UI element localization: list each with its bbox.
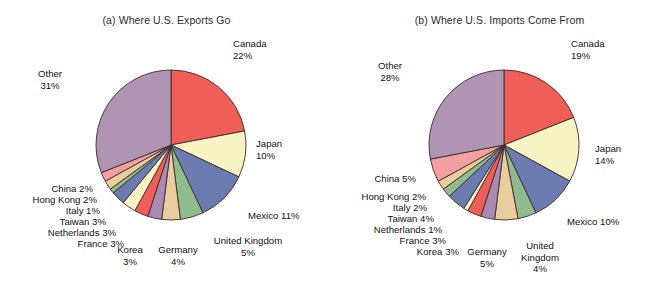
slice-label-other-name: Other [360, 60, 420, 72]
slice-label-italy-text: Italy 2% [333, 202, 427, 214]
chart-panel-exports: (a) Where U.S. Exports Go Canada 22% Jap… [0, 0, 333, 295]
slice-label-france: France 3% [333, 235, 446, 247]
slice-label-other: Other 31% [20, 68, 80, 91]
slice-label-mexico: Mexico 11% [248, 210, 300, 222]
slice-label-netherlands: Netherlands 1% [333, 224, 442, 236]
slice-label-united-kingdom-name2: Kingdom [509, 252, 571, 264]
slice-label-hong-kong: Hong Kong 2% [333, 191, 426, 203]
slice-label-canada: Canada 22% [233, 38, 267, 61]
slice-label-mexico: Mexico 10% [567, 216, 619, 228]
slice-label-italy: Italy 1% [0, 205, 100, 217]
slice-label-korea: Korea 3% [353, 246, 459, 258]
slice-label-china: China 5% [333, 173, 416, 185]
slice-label-united-kingdom-name1: United [509, 240, 571, 252]
slice-label-united-kingdom-value: 4% [509, 263, 571, 275]
slice-label-japan-value: 14% [595, 155, 621, 167]
slice-label-other-value: 31% [20, 80, 80, 92]
slice-label-other-name: Other [20, 68, 80, 80]
pie-slice-other[interactable] [429, 70, 504, 159]
slice-label-china-text: China 2% [0, 183, 93, 195]
slice-label-canada-value: 22% [233, 50, 267, 62]
slice-label-china: China 2% [0, 183, 93, 195]
slice-label-hong-kong: Hong Kong 2% [0, 194, 97, 206]
slice-label-taiwan-text: Taiwan 3% [0, 216, 106, 228]
slice-label-japan-value: 10% [256, 150, 282, 162]
slice-label-korea-text: Korea 3% [353, 246, 459, 258]
slice-label-germany: Germany 5% [456, 246, 518, 269]
slice-label-germany-name: Germany [456, 246, 518, 258]
slice-label-hong-kong-text: Hong Kong 2% [333, 191, 426, 203]
slice-label-france-text: France 3% [0, 238, 124, 250]
slice-label-japan-name: Japan [595, 143, 621, 155]
slice-label-china-text: China 5% [333, 173, 416, 185]
figure-two-pie-charts: (a) Where U.S. Exports Go Canada 22% Jap… [0, 0, 666, 295]
slice-label-taiwan: Taiwan 3% [0, 216, 106, 228]
slice-label-mexico-text: Mexico 10% [567, 216, 619, 228]
slice-label-other: Other 28% [360, 60, 420, 83]
slice-label-japan-name: Japan [256, 138, 282, 150]
slice-label-hong-kong-text: Hong Kong 2% [0, 194, 97, 206]
slice-label-japan: Japan 14% [595, 143, 621, 166]
slice-label-france-text: France 3% [333, 235, 446, 247]
slice-label-japan: Japan 10% [256, 138, 282, 161]
slice-label-other-value: 28% [360, 72, 420, 84]
slice-label-germany-name: Germany [146, 244, 210, 256]
slice-label-mexico-text: Mexico 11% [248, 210, 300, 222]
slice-label-united-kingdom: United Kingdom 4% [509, 240, 571, 275]
slice-label-korea-value: 3% [108, 256, 152, 268]
slice-label-taiwan: Taiwan 4% [333, 213, 434, 225]
slice-label-germany-value: 4% [146, 256, 210, 268]
slice-label-france: France 3% [0, 238, 124, 250]
slice-label-canada-name: Canada [571, 38, 605, 50]
slice-label-netherlands-text: Netherlands 3% [0, 227, 116, 239]
slice-label-united-kingdom-value: 5% [200, 247, 296, 259]
slice-label-canada-name: Canada [233, 38, 267, 50]
slice-label-germany-value: 5% [456, 258, 518, 270]
slice-label-united-kingdom-name: United Kingdom [200, 235, 296, 247]
slice-label-italy-text: Italy 1% [0, 205, 100, 217]
slice-label-canada: Canada 19% [571, 38, 605, 61]
slice-label-netherlands-text: Netherlands 1% [333, 224, 442, 236]
slice-label-taiwan-text: Taiwan 4% [333, 213, 434, 225]
chart-panel-imports: (b) Where U.S. Imports Come From Canada … [333, 0, 666, 295]
slice-label-netherlands: Netherlands 3% [0, 227, 116, 239]
slice-label-united-kingdom: United Kingdom 5% [200, 235, 296, 258]
slice-label-italy: Italy 2% [333, 202, 427, 214]
slice-label-germany: Germany 4% [146, 244, 210, 267]
slice-label-canada-value: 19% [571, 50, 605, 62]
